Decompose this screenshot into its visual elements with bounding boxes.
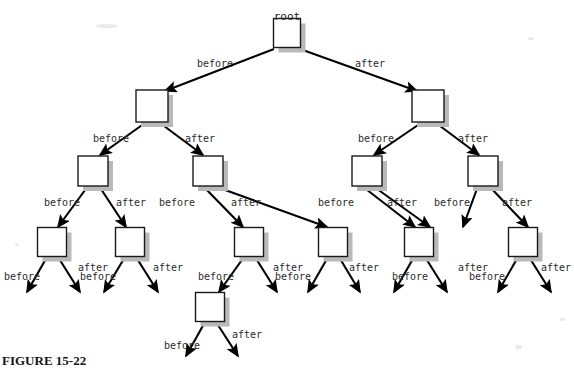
tree-node-n4e xyxy=(405,228,434,257)
tree-node-n4c xyxy=(235,228,264,257)
edge-label-before: before xyxy=(159,198,195,208)
edge-label-after: after xyxy=(458,134,488,144)
tree-node-n5a xyxy=(196,293,225,322)
scan-artifact-speck xyxy=(528,37,534,40)
tree-node-n3b xyxy=(193,156,223,186)
tree-node-n2L xyxy=(136,90,168,122)
edge-label-before: before xyxy=(93,134,129,144)
node-label-root: root xyxy=(274,11,301,22)
edge-label-before: before xyxy=(434,198,470,208)
edge-label-after: after xyxy=(349,263,379,273)
tree-node-n3d xyxy=(468,156,498,186)
edge-label-after: after xyxy=(185,134,215,144)
edge-label-before: before xyxy=(80,272,116,282)
binary-tree-diagram xyxy=(0,0,574,369)
scan-artifact-speck xyxy=(515,345,522,349)
tree-node-n4a xyxy=(38,228,67,257)
edge-label-before: before xyxy=(318,198,354,208)
scan-artifact-speck xyxy=(15,243,19,246)
edge-label-after: after xyxy=(116,198,146,208)
edge-label-before: before xyxy=(164,341,200,351)
tree-node-n3c xyxy=(352,156,382,186)
edge-label-before: before xyxy=(469,272,505,282)
edge-label-before: before xyxy=(197,59,233,69)
edge-label-after: after xyxy=(153,263,183,273)
tree-node-n4f xyxy=(509,228,538,257)
edge-label-before: before xyxy=(44,198,80,208)
edge-label-before: before xyxy=(275,272,311,282)
figure-page: beforeafterbeforeafterbeforeafterbeforea… xyxy=(0,0,574,369)
tree-edge-after xyxy=(300,49,417,91)
scan-artifact-speck xyxy=(96,24,118,28)
edge-label-before: before xyxy=(198,272,234,282)
tree-edge-after xyxy=(425,257,447,292)
scan-artifact-speck xyxy=(560,318,565,321)
edge-label-after: after xyxy=(502,198,532,208)
edge-label-before: before xyxy=(392,272,428,282)
edge-label-after: after xyxy=(231,198,261,208)
edge-label-after: after xyxy=(387,198,417,208)
tree-edge-before xyxy=(165,49,274,91)
tree-node-n4d xyxy=(319,228,348,257)
tree-node-n3a xyxy=(78,156,108,186)
edge-label-before: before xyxy=(4,272,40,282)
tree-node-n4b xyxy=(116,228,145,257)
edge-label-after: after xyxy=(232,330,262,340)
tree-edge-after xyxy=(58,257,80,292)
edge-label-after: after xyxy=(355,59,385,69)
edge-label-after: after xyxy=(541,263,571,273)
edges-layer xyxy=(27,49,551,356)
edge-label-before: before xyxy=(358,134,394,144)
figure-caption: FIGURE 15-22 xyxy=(2,354,86,367)
tree-node-n2R xyxy=(412,90,444,122)
